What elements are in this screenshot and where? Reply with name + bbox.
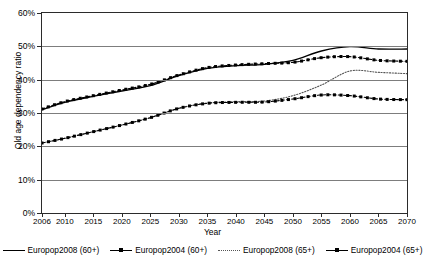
- gridlines: [42, 13, 407, 213]
- x-tick-label: 2020: [113, 218, 131, 226]
- legend-marker-icon: [335, 248, 339, 252]
- clipped-title-remnant: · · · · · · · · ·: [0, 0, 425, 6]
- gridline: [42, 113, 407, 114]
- x-tick-label: 2006: [33, 218, 51, 226]
- x-tick-label: 2035: [198, 218, 216, 226]
- legend-label: Europop2004 (65+): [351, 246, 423, 255]
- x-tick-label: 2055: [313, 218, 331, 226]
- gridline: [42, 146, 407, 147]
- x-tick-label: 2070: [398, 218, 416, 226]
- legend-swatch-icon: [3, 246, 25, 255]
- x-axis: 2006201020152020202520302035204020452050…: [41, 214, 408, 228]
- y-tick-label: 60%: [18, 9, 35, 18]
- legend-marker-icon: [119, 248, 123, 252]
- old-age-dependency-ratio-chart: · · · · · · · · · 0%10%20%30%40%50%60% O…: [0, 0, 425, 258]
- legend-swatch-icon: [218, 246, 240, 255]
- x-tick-label: 2025: [141, 218, 159, 226]
- x-tick-label: 2050: [284, 218, 302, 226]
- x-tick-label: 2030: [170, 218, 188, 226]
- legend-label: Europop2004 (60+): [135, 246, 207, 255]
- legend-swatch-icon: [110, 246, 132, 255]
- legend-item-2[interactable]: Europop2004 (60+): [110, 246, 207, 255]
- legend-item-3[interactable]: Europop2008 (65+): [218, 246, 315, 255]
- y-tick-label: 10%: [18, 176, 35, 185]
- gridline: [42, 46, 407, 47]
- legend-swatch-icon: [326, 246, 348, 255]
- legend-label: Europop2008 (60+): [28, 246, 100, 255]
- y-axis-title: Old age dependency ratio: [14, 31, 23, 171]
- x-tick-label: 2045: [256, 218, 274, 226]
- clipped-title-text: · · · · · · · · ·: [0, 0, 425, 4]
- x-tick-label: 2010: [56, 218, 74, 226]
- x-tick-label: 2040: [227, 218, 245, 226]
- x-tick-label: 2015: [84, 218, 102, 226]
- gridline: [42, 80, 407, 81]
- x-axis-title: Year: [0, 228, 425, 237]
- chart-legend: Europop2008 (60+)Europop2004 (60+)Europo…: [0, 243, 425, 257]
- x-tick-label: 2065: [370, 218, 388, 226]
- legend-label: Europop2008 (65+): [243, 246, 315, 255]
- gridline: [42, 180, 407, 181]
- legend-item-4[interactable]: Europop2004 (65+): [326, 246, 423, 255]
- x-tick-label: 2060: [341, 218, 359, 226]
- plot-area: [41, 12, 408, 214]
- legend-item-1[interactable]: Europop2008 (60+): [3, 246, 100, 255]
